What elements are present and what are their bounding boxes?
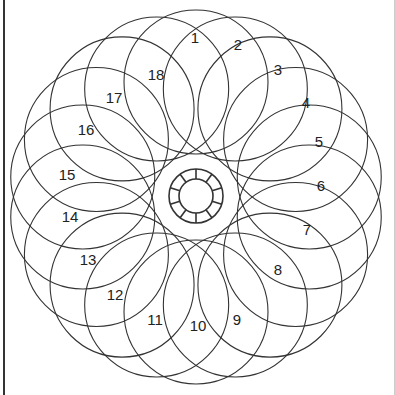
circle-label-14: 14 xyxy=(62,208,79,225)
circle-4 xyxy=(224,68,368,212)
circle-label-2: 2 xyxy=(234,36,242,53)
circle-label-10: 10 xyxy=(190,317,207,334)
circle-10 xyxy=(124,240,268,384)
circle-7 xyxy=(224,183,368,327)
circle-label-5: 5 xyxy=(315,133,323,150)
center-hub xyxy=(169,169,223,223)
circle-label-9: 9 xyxy=(233,311,241,328)
circle-label-13: 13 xyxy=(80,251,97,268)
circle-label-17: 17 xyxy=(106,89,123,106)
circle-label-7: 7 xyxy=(303,221,311,238)
circle-16 xyxy=(24,68,168,212)
overlapping-circles-diagram: 123456789101112131415161718 xyxy=(0,0,395,395)
circle-label-18: 18 xyxy=(148,66,165,83)
circle-13 xyxy=(24,183,168,327)
circle-label-15: 15 xyxy=(59,166,76,183)
circle-label-12: 12 xyxy=(107,286,124,303)
circle-label-3: 3 xyxy=(274,61,282,78)
circle-6 xyxy=(237,145,381,289)
circle-label-1: 1 xyxy=(191,29,199,46)
circle-label-8: 8 xyxy=(274,261,282,278)
circle-label-6: 6 xyxy=(317,177,325,194)
circle-label-4: 4 xyxy=(302,94,310,111)
circle-label-16: 16 xyxy=(78,121,95,138)
circle-label-11: 11 xyxy=(147,311,163,328)
